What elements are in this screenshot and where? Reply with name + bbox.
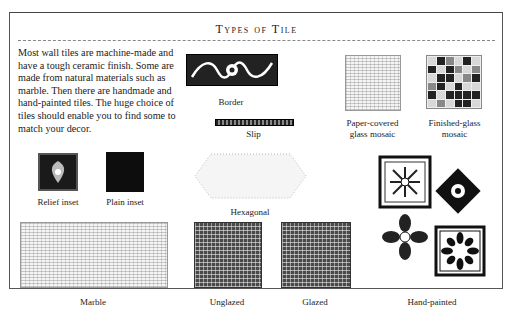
marble-caption: Marble [60, 297, 126, 308]
unglazed-tile-image [194, 222, 262, 288]
glazed-tile-image [281, 222, 351, 288]
hand-painted-caption: Hand-painted [392, 297, 472, 308]
hexagonal-tile-image [193, 152, 308, 200]
slip-caption: Slip [215, 129, 292, 140]
paper-covered-mosaic-image [345, 55, 401, 111]
relief-inset-image [38, 153, 78, 191]
relief-inset-caption: Relief inset [25, 197, 91, 208]
marble-tile-image [20, 222, 168, 288]
hand-painted-tiles-image [378, 155, 486, 290]
glazed-caption: Glazed [281, 297, 349, 308]
page-title: Types of Tile [0, 22, 513, 37]
hexagonal-caption: Hexagonal [215, 207, 285, 218]
intro-paragraph: Most wall tiles are machine-made and hav… [18, 47, 183, 135]
plain-inset-image [106, 152, 144, 192]
title-divider [18, 40, 495, 41]
border-tile-image [186, 54, 278, 86]
finished-glass-mosaic-caption: Finished-glass mosaic [412, 118, 497, 140]
slip-tile-image [215, 119, 294, 126]
unglazed-caption: Unglazed [194, 297, 260, 308]
border-caption: Border [186, 97, 276, 108]
paper-covered-mosaic-caption: Paper-covered glass mosaic [330, 118, 415, 140]
finished-glass-mosaic-image [426, 55, 482, 109]
plain-inset-caption: Plain inset [92, 197, 158, 208]
